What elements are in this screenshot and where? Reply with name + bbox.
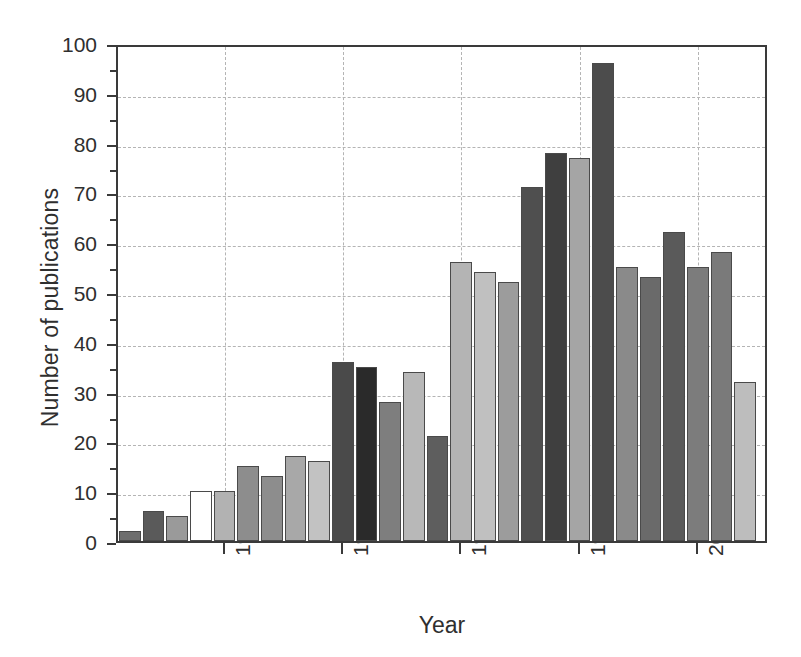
bar xyxy=(687,267,709,541)
bar xyxy=(379,402,401,541)
y-tick-label: 70 xyxy=(37,183,97,204)
y-tick-major xyxy=(107,443,116,445)
bar xyxy=(545,153,567,541)
bar xyxy=(356,367,378,541)
y-tick-major xyxy=(107,344,116,346)
y-tick-major xyxy=(107,45,116,47)
y-tick-major xyxy=(107,294,116,296)
y-tick-label: 30 xyxy=(37,383,97,404)
y-tick-major xyxy=(107,394,116,396)
y-tick-major xyxy=(107,95,116,97)
plot-area xyxy=(116,45,767,543)
bar xyxy=(427,436,449,541)
bar xyxy=(237,466,259,541)
grid-line-horizontal xyxy=(118,97,765,98)
bar xyxy=(166,516,188,541)
bar xyxy=(308,461,330,541)
bar xyxy=(474,272,496,541)
y-tick-major xyxy=(107,145,116,147)
y-tick-label: 10 xyxy=(37,482,97,503)
y-tick-major xyxy=(107,194,116,196)
bar xyxy=(663,232,685,541)
y-tick-label: 0 xyxy=(37,532,97,553)
bar xyxy=(640,277,662,541)
x-tick-major xyxy=(696,543,698,554)
bar xyxy=(332,362,354,541)
bar xyxy=(403,372,425,541)
y-tick-label: 40 xyxy=(37,333,97,354)
bar xyxy=(261,476,283,541)
grid-line-vertical xyxy=(225,47,226,541)
bar-chart-figure: Number of publications Year 010203040506… xyxy=(0,0,801,657)
y-tick-label: 20 xyxy=(37,432,97,453)
bar xyxy=(616,267,638,541)
y-tick-label: 100 xyxy=(37,34,97,55)
y-tick-label: 50 xyxy=(37,283,97,304)
bar xyxy=(285,456,307,541)
bar xyxy=(521,187,543,541)
grid-line-horizontal xyxy=(118,196,765,197)
x-tick-major xyxy=(459,543,461,554)
bar xyxy=(143,511,165,541)
bar xyxy=(119,531,141,541)
bar xyxy=(569,158,591,541)
y-tick-label: 60 xyxy=(37,233,97,254)
x-tick-major xyxy=(223,543,225,554)
y-tick-major xyxy=(107,493,116,495)
x-tick-major xyxy=(341,543,343,554)
x-axis-title: Year xyxy=(116,612,768,639)
y-tick-label: 90 xyxy=(37,84,97,105)
bar xyxy=(450,262,472,541)
bar xyxy=(711,252,733,541)
bar xyxy=(214,491,236,541)
bar xyxy=(190,491,212,541)
bar xyxy=(498,282,520,541)
bar xyxy=(592,63,614,541)
y-tick-label: 80 xyxy=(37,134,97,155)
y-tick-major xyxy=(107,543,116,545)
x-tick-major xyxy=(578,543,580,554)
bar xyxy=(734,382,756,541)
y-tick-major xyxy=(107,244,116,246)
grid-line-horizontal xyxy=(118,147,765,148)
